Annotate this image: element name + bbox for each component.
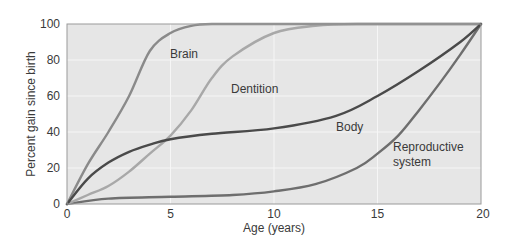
label-reproductive-line2: system (393, 155, 431, 169)
label-reproductive-line1: Reproductive (393, 140, 464, 154)
x-tick-label: 5 (167, 207, 174, 221)
label-body: Body (336, 120, 363, 134)
y-tick-label: 40 (47, 125, 61, 139)
x-tick-label: 10 (267, 207, 281, 221)
label-dentition: Dentition (231, 82, 278, 96)
y-tick-label: 80 (47, 53, 61, 67)
x-tick-label: 15 (371, 207, 385, 221)
x-axis-label: Age (years) (243, 221, 305, 235)
label-brain: Brain (170, 47, 198, 61)
x-axis-ticks: 05101520 (64, 207, 490, 221)
x-tick-label: 0 (64, 207, 71, 221)
y-tick-label: 20 (47, 161, 61, 175)
y-tick-label: 60 (47, 89, 61, 103)
y-tick-label: 100 (40, 17, 60, 31)
growth-chart: 020406080100 05101520 Percent gain since… (0, 0, 513, 252)
y-axis-label: Percent gain since birth (24, 51, 38, 176)
y-axis-ticks: 020406080100 (40, 17, 60, 211)
y-tick-label: 0 (53, 197, 60, 211)
x-tick-label: 20 (476, 207, 490, 221)
